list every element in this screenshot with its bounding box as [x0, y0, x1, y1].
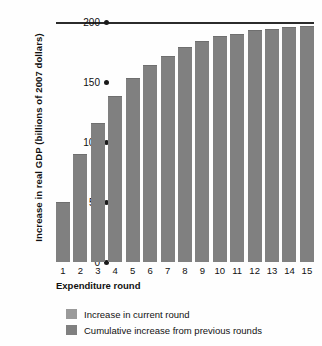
- bar-series: [56, 22, 314, 262]
- x-tick-label: 3: [91, 265, 105, 276]
- bar: [143, 65, 157, 262]
- x-tick-label: 1: [56, 265, 70, 276]
- bar-slot: [195, 22, 209, 262]
- x-tick-label: 10: [213, 265, 227, 276]
- bar-slot: [248, 22, 262, 262]
- bar: [178, 47, 192, 262]
- x-tick-label: 6: [143, 265, 157, 276]
- bar: [108, 96, 122, 262]
- chart-page: Increase in real GDP (billions of 2007 d…: [0, 0, 322, 346]
- bar-slot: [213, 22, 227, 262]
- x-axis-title: Expenditure round: [56, 280, 140, 291]
- bar-slot: [300, 22, 314, 262]
- bar-slot: [265, 22, 279, 262]
- x-tick-label: 7: [161, 265, 175, 276]
- bar: [126, 78, 140, 262]
- legend-item: Increase in current round: [66, 306, 262, 322]
- x-tick-label: 5: [126, 265, 140, 276]
- bar: [300, 26, 314, 262]
- bar: [230, 34, 244, 262]
- bar-slot: [230, 22, 244, 262]
- bar: [265, 29, 279, 262]
- legend-swatch-icon: [66, 309, 77, 319]
- bar-slot: [178, 22, 192, 262]
- x-tick-label: 8: [178, 265, 192, 276]
- bar-slot: [91, 22, 105, 262]
- bar: [248, 30, 262, 262]
- bar: [56, 202, 70, 262]
- x-tick-label: 11: [230, 265, 244, 276]
- x-tick-label: 14: [282, 265, 296, 276]
- bar-slot: [126, 22, 140, 262]
- legend-item: Cumulative increase from previous rounds: [66, 322, 262, 338]
- x-axis-ticks: 123456789101112131415: [56, 265, 314, 276]
- legend-label: Increase in current round: [84, 309, 190, 320]
- bar-slot: [73, 22, 87, 262]
- bar-slot: [108, 22, 122, 262]
- x-tick-label: 4: [108, 265, 122, 276]
- bar-slot: [282, 22, 296, 262]
- bar-slot: [161, 22, 175, 262]
- bar: [282, 27, 296, 262]
- bar: [195, 41, 209, 262]
- plot-area: 200150100500: [56, 22, 314, 262]
- chart-legend: Increase in current roundCumulative incr…: [66, 306, 262, 338]
- legend-label: Cumulative increase from previous rounds: [84, 325, 262, 336]
- x-tick-label: 2: [73, 265, 87, 276]
- bar: [161, 56, 175, 262]
- x-tick-label: 15: [300, 265, 314, 276]
- x-tick-label: 9: [195, 265, 209, 276]
- legend-swatch-icon: [66, 325, 77, 335]
- bar: [213, 36, 227, 262]
- bar-slot: [56, 22, 70, 262]
- x-tick-label: 12: [248, 265, 262, 276]
- y-axis-title: Increase in real GDP (billions of 2007 d…: [33, 18, 44, 258]
- bar: [73, 154, 87, 262]
- bar-slot: [143, 22, 157, 262]
- bar: [91, 123, 105, 262]
- x-tick-label: 13: [265, 265, 279, 276]
